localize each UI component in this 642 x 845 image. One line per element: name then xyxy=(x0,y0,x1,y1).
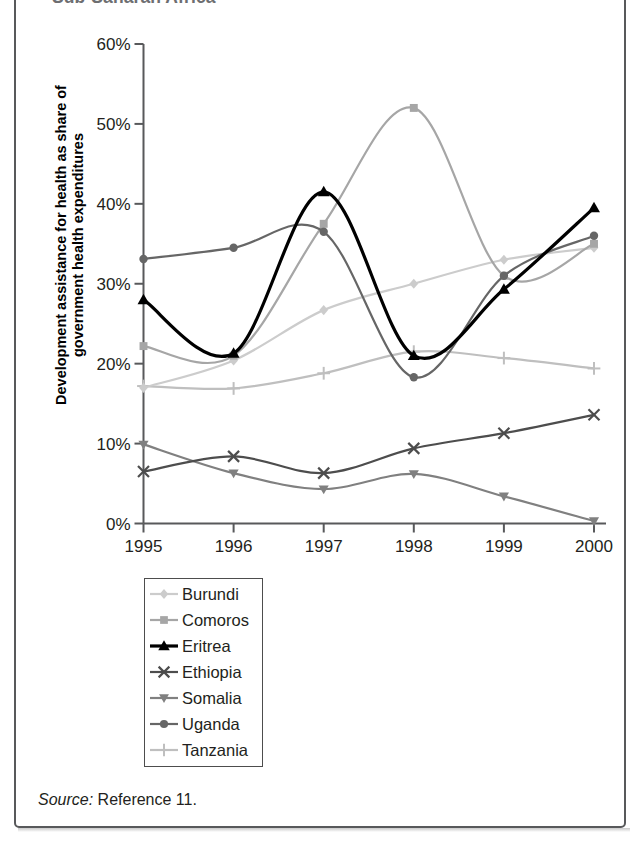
x-cross-marker xyxy=(148,663,180,681)
diamond-marker xyxy=(409,279,418,289)
triangle-up-marker xyxy=(148,637,180,655)
x-axis-tick-label: 1995 xyxy=(125,537,163,556)
y-axis-tick-label: 50% xyxy=(96,115,130,134)
diamond-marker xyxy=(139,383,148,393)
y-axis-tick-label: 20% xyxy=(96,355,130,374)
legend-item-eritrea[interactable]: Eritrea xyxy=(145,633,262,659)
plus-marker xyxy=(588,362,601,375)
plus-marker xyxy=(498,352,511,365)
diamond-marker xyxy=(500,255,509,265)
triangle-up-marker xyxy=(138,294,150,304)
legend-label: Tanzania xyxy=(180,741,248,759)
series-line xyxy=(144,444,595,521)
y-axis-tick-label: 60% xyxy=(96,35,130,54)
chart-legend: BurundiComorosEritreaEthiopiaSomaliaUgan… xyxy=(144,578,263,767)
square-marker xyxy=(320,220,328,228)
y-axis-tick-label: 0% xyxy=(106,515,131,534)
square-marker xyxy=(160,616,168,624)
triangle-down-marker xyxy=(589,517,599,526)
x-axis-tick-label: 1999 xyxy=(485,537,523,556)
source-prefix: Source: xyxy=(38,791,93,808)
legend-item-tanzania[interactable]: Tanzania xyxy=(145,737,262,763)
legend-label: Eritrea xyxy=(180,637,231,655)
legend-item-burundi[interactable]: Burundi xyxy=(145,581,262,607)
axis-group: 0%10%20%30%40%50%60%19951996199719981999… xyxy=(96,35,612,556)
plus-marker xyxy=(317,367,330,380)
legend-label: Ethiopia xyxy=(180,663,242,681)
square-marker xyxy=(410,104,418,112)
legend-label: Comoros xyxy=(180,611,249,629)
legend-label: Burundi xyxy=(180,585,239,603)
y-axis-tick-label: 30% xyxy=(96,275,130,294)
triangle-up-marker xyxy=(588,202,600,212)
plus-marker xyxy=(158,744,170,756)
circle-marker xyxy=(590,232,598,240)
line-chart: 0%10%20%30%40%50%60%19951996199719981999… xyxy=(0,0,642,845)
plus-marker xyxy=(148,741,180,759)
circle-marker xyxy=(410,373,418,381)
circle-marker xyxy=(320,228,328,236)
series-eritrea xyxy=(138,186,600,360)
y-axis-tick-label: 40% xyxy=(96,195,130,214)
series-line xyxy=(144,351,595,389)
source-note: Source: Reference 11. xyxy=(38,791,197,809)
x-axis-tick-label: 1996 xyxy=(215,537,253,556)
circle-marker xyxy=(148,715,180,733)
legend-label: Somalia xyxy=(180,689,242,707)
diamond-marker xyxy=(148,585,180,603)
circle-marker xyxy=(500,272,508,280)
series-line xyxy=(144,415,595,473)
series-line xyxy=(144,107,595,363)
circle-marker xyxy=(160,720,168,728)
plus-marker xyxy=(227,382,240,395)
circle-marker xyxy=(139,255,147,263)
diamond-marker xyxy=(160,589,169,599)
legend-item-comoros[interactable]: Comoros xyxy=(145,607,262,633)
legend-item-somalia[interactable]: Somalia xyxy=(145,685,262,711)
legend-item-uganda[interactable]: Uganda xyxy=(145,711,262,737)
x-axis-tick-label: 2000 xyxy=(575,537,613,556)
circle-marker xyxy=(229,244,237,252)
x-axis-tick-label: 1997 xyxy=(305,537,343,556)
chart-plot-area: 0%10%20%30%40%50%60%19951996199719981999… xyxy=(0,0,642,845)
series-ethiopia xyxy=(138,409,600,478)
source-reference: Reference 11. xyxy=(98,791,197,808)
x-axis-tick-label: 1998 xyxy=(395,537,433,556)
diamond-marker xyxy=(319,305,328,315)
series-comoros xyxy=(140,104,598,363)
legend-label: Uganda xyxy=(180,715,240,733)
square-marker xyxy=(140,342,148,350)
series-line xyxy=(144,192,595,359)
y-axis-tick-label: 10% xyxy=(96,435,130,454)
triangle-down-marker xyxy=(148,689,180,707)
legend-item-ethiopia[interactable]: Ethiopia xyxy=(145,659,262,685)
square-marker xyxy=(148,611,180,629)
series-somalia xyxy=(138,441,599,527)
series-uganda xyxy=(139,225,598,382)
square-marker xyxy=(590,240,598,248)
